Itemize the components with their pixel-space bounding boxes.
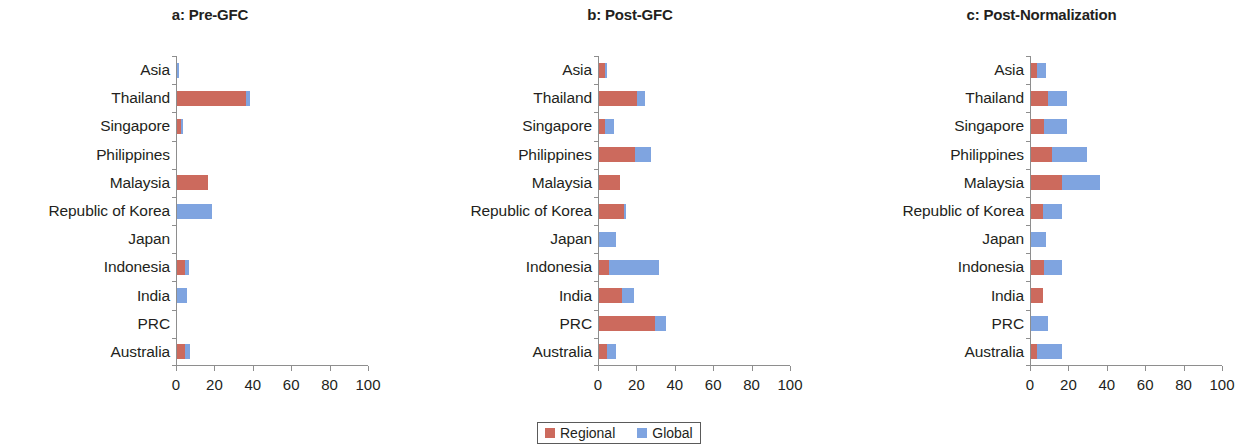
y-axis-tick bbox=[172, 197, 176, 198]
bar-segment-regional bbox=[177, 344, 185, 359]
category-label: Malaysia bbox=[110, 175, 170, 191]
category-label: PRC bbox=[560, 316, 592, 332]
x-axis-tick-label: 100 bbox=[777, 376, 802, 393]
y-axis-tick bbox=[172, 84, 176, 85]
bar-segment-global bbox=[1037, 344, 1062, 359]
stacked-bar bbox=[177, 232, 369, 247]
stacked-bar bbox=[1031, 260, 1223, 275]
stacked-bar bbox=[1031, 288, 1223, 303]
stacked-bar bbox=[1031, 344, 1223, 359]
legend-entry: Regional bbox=[545, 426, 615, 440]
x-axis-tick-label: 60 bbox=[705, 376, 722, 393]
legend-entry: Global bbox=[637, 426, 692, 440]
figure-root: a: Pre-GFCAsiaThailandSingaporePhilippin… bbox=[0, 0, 1243, 447]
category-label: Asia bbox=[994, 62, 1024, 78]
y-axis-tick bbox=[1026, 281, 1030, 282]
bar-segment-regional bbox=[1031, 288, 1043, 303]
y-axis-tick bbox=[172, 56, 176, 57]
bar-segment-global bbox=[605, 119, 615, 134]
stacked-bar bbox=[599, 63, 791, 78]
panel-title-b: b: Post-GFC bbox=[420, 6, 840, 23]
y-axis-tick bbox=[172, 112, 176, 113]
bar-segment-global bbox=[185, 260, 189, 275]
category-label: Asia bbox=[562, 62, 592, 78]
category-label: Republic of Korea bbox=[902, 203, 1024, 219]
bar-segment-regional bbox=[1031, 204, 1043, 219]
category-axis-labels-a: AsiaThailandSingaporePhilippinesMalaysia… bbox=[0, 56, 176, 366]
x-axis-line bbox=[1030, 365, 1222, 366]
bar-segment-global bbox=[1031, 232, 1046, 247]
category-label: Asia bbox=[140, 62, 170, 78]
y-axis-tick bbox=[1026, 338, 1030, 339]
category-label: Thailand bbox=[111, 90, 170, 106]
bar-segment-regional bbox=[599, 175, 620, 190]
x-axis-tick-label: 60 bbox=[1137, 376, 1154, 393]
y-axis-tick bbox=[1026, 225, 1030, 226]
axes-c: 020406080100 bbox=[1030, 56, 1222, 366]
x-axis-tick-label: 20 bbox=[1060, 376, 1077, 393]
y-axis-tick bbox=[594, 310, 598, 311]
axes-a: 020406080100 bbox=[176, 56, 368, 366]
bar-segment-global bbox=[1044, 260, 1061, 275]
category-label: India bbox=[137, 288, 170, 304]
stacked-bar bbox=[599, 91, 791, 106]
bar-segment-global bbox=[185, 344, 191, 359]
category-label: Japan bbox=[550, 231, 592, 247]
y-axis-tick bbox=[594, 253, 598, 254]
x-axis-tick bbox=[1107, 366, 1108, 371]
category-label: Philippines bbox=[518, 147, 592, 163]
y-axis-tick bbox=[1026, 310, 1030, 311]
stacked-bar bbox=[177, 91, 369, 106]
category-label: Philippines bbox=[96, 147, 170, 163]
plot-area-c: AsiaThailandSingaporePhilippinesMalaysia… bbox=[840, 56, 1243, 366]
category-label: Singapore bbox=[522, 118, 592, 134]
bar-segment-regional bbox=[177, 260, 185, 275]
y-axis-tick bbox=[172, 253, 176, 254]
y-axis-tick bbox=[1026, 112, 1030, 113]
y-axis-tick bbox=[172, 310, 176, 311]
bar-segment-regional bbox=[599, 316, 655, 331]
bar-segment-regional bbox=[1031, 147, 1052, 162]
x-axis-tick bbox=[636, 366, 637, 371]
stacked-bar bbox=[599, 147, 791, 162]
stacked-bar bbox=[599, 288, 791, 303]
y-axis-tick bbox=[172, 141, 176, 142]
category-label: Australia bbox=[533, 344, 592, 360]
x-axis-tick bbox=[1030, 366, 1031, 371]
y-axis-tick bbox=[594, 225, 598, 226]
legend-swatch-global bbox=[637, 428, 647, 438]
chart-panel-a: a: Pre-GFCAsiaThailandSingaporePhilippin… bbox=[0, 0, 420, 400]
stacked-bar bbox=[1031, 147, 1223, 162]
stacked-bar bbox=[599, 260, 791, 275]
category-label: Thailand bbox=[533, 90, 592, 106]
y-axis-tick bbox=[594, 112, 598, 113]
bar-segment-global bbox=[177, 63, 179, 78]
bar-segment-global bbox=[1037, 63, 1047, 78]
stacked-bar bbox=[177, 316, 369, 331]
bar-segment-global bbox=[177, 288, 187, 303]
stacked-bar bbox=[177, 63, 369, 78]
x-axis-line bbox=[176, 365, 368, 366]
y-axis-tick bbox=[594, 141, 598, 142]
stacked-bar bbox=[599, 232, 791, 247]
bar-segment-global bbox=[637, 91, 645, 106]
axes-b: 020406080100 bbox=[598, 56, 790, 366]
x-axis-tick bbox=[1222, 366, 1223, 371]
x-axis-tick bbox=[713, 366, 714, 371]
x-axis-tick-label: 20 bbox=[628, 376, 645, 393]
category-label: Malaysia bbox=[532, 175, 592, 191]
bar-segment-regional bbox=[599, 344, 607, 359]
stacked-bar bbox=[1031, 119, 1223, 134]
plot-area-b: AsiaThailandSingaporePhilippinesMalaysia… bbox=[420, 56, 840, 366]
x-axis-tick bbox=[1068, 366, 1069, 371]
bar-segment-global bbox=[607, 344, 617, 359]
bar-segment-regional bbox=[599, 147, 635, 162]
category-label: Republic of Korea bbox=[48, 203, 170, 219]
bar-segment-global bbox=[1052, 147, 1087, 162]
x-axis-tick bbox=[790, 366, 791, 371]
x-axis-tick bbox=[214, 366, 215, 371]
category-axis-labels-b: AsiaThailandSingaporePhilippinesMalaysia… bbox=[420, 56, 598, 366]
x-axis-tick bbox=[291, 366, 292, 371]
panel-title-a: a: Pre-GFC bbox=[0, 6, 420, 23]
stacked-bar bbox=[177, 260, 369, 275]
